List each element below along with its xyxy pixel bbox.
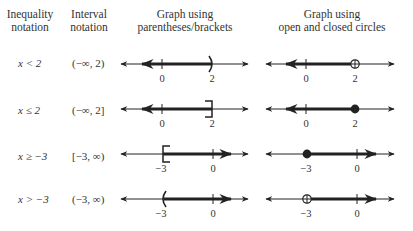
tick-label: 2 — [209, 118, 214, 129]
tick-label: 0 — [354, 208, 359, 219]
number-line-graphs: 0 2 0 2 0 2 0 2 −3 0 — [0, 0, 413, 231]
tick-label: 2 — [352, 73, 357, 84]
circle-graph-row-2: 0 2 — [266, 104, 394, 129]
tick-label: −3 — [300, 163, 311, 174]
bracket-graph-row-1: 0 2 — [121, 56, 248, 84]
circle-graph-row-3: −3 0 — [266, 149, 394, 174]
tick-label: 0 — [210, 163, 215, 174]
bracket-graph-row-3: −3 0 — [121, 146, 248, 174]
tick-label: 0 — [159, 118, 164, 129]
tick-label: 2 — [352, 118, 357, 129]
bracket-graph-row-2: 0 2 — [121, 101, 248, 129]
tick-label: 0 — [303, 118, 308, 129]
circle-graph-row-1: 0 2 — [266, 59, 394, 84]
tick-label: 0 — [354, 163, 359, 174]
closed-circle-icon — [303, 150, 312, 159]
tick-label: 0 — [303, 73, 308, 84]
tick-label: 0 — [159, 73, 164, 84]
tick-label: −3 — [300, 208, 311, 219]
tick-label: −3 — [155, 163, 166, 174]
tick-label: −3 — [155, 208, 166, 219]
circle-graph-row-4: −3 0 — [266, 194, 394, 219]
closed-circle-icon — [351, 105, 360, 114]
tick-label: 0 — [210, 208, 215, 219]
bracket-graph-row-4: −3 0 — [121, 191, 248, 219]
tick-label: 2 — [209, 73, 214, 84]
